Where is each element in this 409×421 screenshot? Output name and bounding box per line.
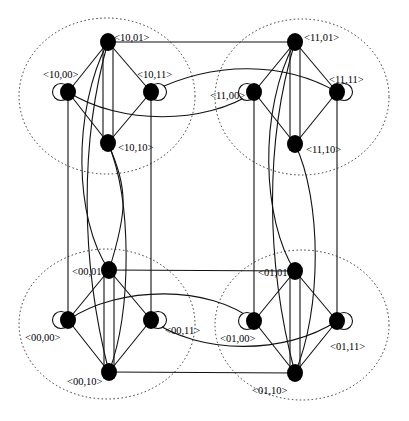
node-1000 [60, 83, 76, 101]
node-0100 [246, 312, 262, 330]
node-label-0111: <01,11> [330, 341, 365, 352]
node-label-1001: <10,01> [114, 32, 150, 43]
node-label-0110: <01,10> [252, 385, 288, 396]
node-1110 [287, 135, 303, 153]
node-label-0011: <00,11> [165, 325, 200, 336]
node-label-1000: <10,00> [43, 69, 79, 80]
hypercube-cluster-diagram: <10,01><10,00><10,11><10,10><11,01><11,0… [0, 0, 409, 421]
node-label-0101: <01,01> [258, 267, 294, 278]
node-label-0100: <01,00> [220, 333, 256, 344]
edge-0010-0011 [109, 320, 151, 372]
node-0010 [101, 363, 117, 381]
edge-1001-1011 [108, 42, 151, 92]
edge-1101-0110 [273, 42, 296, 373]
node-1111 [329, 83, 345, 101]
node-label-1011: <10,11> [137, 69, 172, 80]
edge-1110-1111 [295, 92, 337, 144]
edges [68, 42, 337, 373]
node-label-1111: <11,11> [329, 74, 364, 85]
node-0110 [287, 364, 303, 382]
node-0000 [60, 311, 76, 329]
edge-0101-0111 [295, 271, 337, 321]
node-1010 [100, 134, 116, 152]
node-1100 [246, 83, 262, 101]
edge-0001-0000 [68, 270, 109, 320]
node-label-1100: <11,00> [210, 90, 245, 101]
node-label-0001: <00,01> [72, 266, 108, 277]
node-0011 [143, 311, 159, 329]
node-label-1010: <10,10> [118, 142, 154, 153]
edge-1101-1100 [254, 42, 295, 92]
edge-0010-0110 [109, 372, 295, 373]
node-1101 [287, 33, 303, 51]
node-labels: <10,01><10,00><10,11><10,10><11,01><11,0… [25, 32, 365, 396]
node-label-1110: <11,10> [306, 144, 341, 155]
self-loops [53, 84, 353, 330]
edge-0101-0100 [254, 271, 295, 321]
node-label-0010: <00,10> [67, 376, 103, 387]
edge-1001-0010 [87, 42, 109, 372]
edge-1101-0101 [269, 42, 295, 271]
edge-1010-0010 [108, 143, 126, 372]
edge-1001-0001 [82, 42, 109, 270]
node-1011 [143, 83, 159, 101]
edge-1010-1011 [108, 92, 151, 143]
edge-0001-1010 [108, 143, 123, 270]
node-label-1101: <11,01> [304, 32, 339, 43]
node-0111 [329, 312, 345, 330]
node-label-0000: <00,00> [25, 332, 61, 343]
